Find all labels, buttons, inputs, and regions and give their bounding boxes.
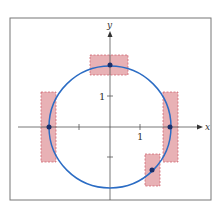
x-axis-label: x xyxy=(205,122,210,132)
y-axis-label: y xyxy=(106,20,113,30)
point-right xyxy=(168,125,173,130)
figure-frame xyxy=(10,18,211,200)
y-tick-label: 1 xyxy=(99,91,105,102)
circle-neighborhood-diagram: x y 1 1 xyxy=(0,0,219,207)
point-lower-right xyxy=(150,168,155,173)
x-tick-label: 1 xyxy=(137,131,143,142)
point-top xyxy=(108,63,113,68)
point-left xyxy=(47,125,52,130)
